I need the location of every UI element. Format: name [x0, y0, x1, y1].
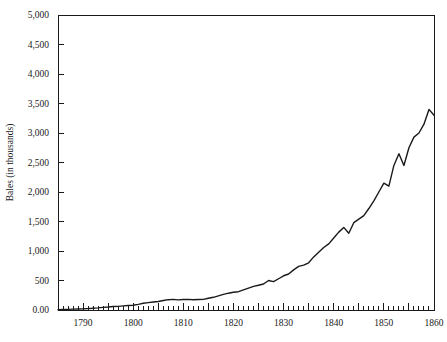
- y-tick-label-500: 500: [35, 276, 50, 286]
- y-tick-label-0: 0.00: [32, 305, 49, 315]
- y-tick-label-3000: 3,000: [28, 128, 50, 138]
- x-tick-label-1800: 1800: [124, 318, 143, 328]
- data-series-line: [58, 109, 434, 309]
- y-tick-label-2500: 2,500: [28, 158, 50, 168]
- x-tick-label-1820: 1820: [224, 318, 243, 328]
- y-tick-label-1000: 1,000: [28, 246, 50, 256]
- x-tick-label-1790: 1790: [74, 318, 93, 328]
- y-tick-label-3500: 3,500: [28, 99, 50, 109]
- y-tick-label-2000: 2,000: [28, 187, 50, 197]
- y-tick-label-4500: 4,500: [28, 40, 50, 50]
- x-tick-label-1850: 1850: [374, 318, 393, 328]
- x-tick-label-1840: 1840: [324, 318, 343, 328]
- chart-canvas: 0.005001,0001,5002,0002,5003,0003,5004,0…: [0, 0, 447, 342]
- x-tick-label-1860: 1860: [425, 318, 444, 328]
- y-tick-label-5000: 5,000: [28, 10, 50, 20]
- x-tick-label-1810: 1810: [174, 318, 193, 328]
- y-tick-label-1500: 1,500: [28, 217, 50, 227]
- y-axis-title: Bales (in thousands): [5, 124, 16, 202]
- plot-frame: [58, 15, 434, 310]
- y-tick-label-4000: 4,000: [28, 69, 50, 79]
- cotton-production-chart: 0.005001,0001,5002,0002,5003,0003,5004,0…: [0, 0, 447, 342]
- x-tick-label-1830: 1830: [274, 318, 293, 328]
